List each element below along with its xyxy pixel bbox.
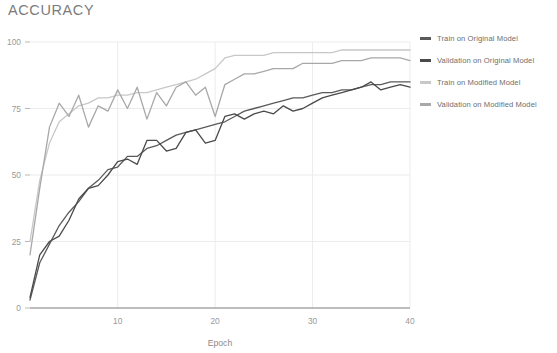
y-tick-label: 50 — [12, 170, 22, 180]
legend-swatch-train-original — [420, 37, 431, 40]
y-tick-label: 25 — [12, 237, 22, 247]
accuracy-chart: ACCURACY 025507510010203040 Epoch Train … — [0, 0, 557, 353]
legend-item[interactable]: Train on Modified Model — [420, 73, 557, 92]
x-tick-label: 20 — [210, 316, 220, 326]
x-tick-label: 30 — [308, 316, 318, 326]
series-line — [30, 50, 410, 242]
x-axis-title: Epoch — [208, 338, 233, 348]
y-tick-label: 75 — [12, 104, 22, 114]
legend-swatch-validation-original — [420, 59, 431, 62]
series-line — [30, 82, 410, 300]
series-line — [30, 82, 410, 297]
x-tick-label: 40 — [405, 316, 415, 326]
legend-item[interactable]: Train on Original Model — [420, 29, 557, 48]
x-tick-label: 10 — [113, 316, 123, 326]
legend-label: Validation on Original Model — [437, 56, 534, 65]
chart-legend: Train on Original Model Validation on Or… — [420, 29, 557, 117]
y-tick-label: 0 — [16, 303, 21, 313]
legend-swatch-train-modified — [420, 81, 431, 84]
legend-item[interactable]: Validation on Modified Model — [420, 95, 557, 114]
grid-lines — [30, 42, 410, 308]
legend-label: Train on Original Model — [437, 34, 518, 43]
series-line — [30, 58, 410, 255]
legend-item[interactable]: Validation on Original Model — [420, 51, 557, 70]
y-tick-label: 100 — [7, 37, 21, 47]
legend-label: Train on Modified Model — [437, 78, 520, 87]
legend-label: Validation on Modified Model — [437, 100, 537, 109]
tick-labels: 025507510010203040 — [7, 37, 415, 326]
legend-swatch-validation-modified — [420, 103, 431, 106]
